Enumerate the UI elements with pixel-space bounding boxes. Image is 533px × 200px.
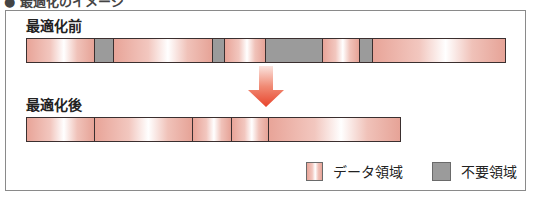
data-segment — [95, 118, 193, 141]
legend-item-waste: 不要領域 — [432, 161, 517, 181]
data-segment — [373, 39, 505, 62]
data-segment — [323, 39, 360, 62]
legend-label-waste: 不要領域 — [461, 161, 517, 181]
after-label: 最適化後 — [26, 94, 82, 114]
waste-segment — [360, 39, 373, 62]
data-segment — [269, 118, 400, 141]
data-segment — [225, 39, 266, 62]
data-area-swatch — [306, 162, 323, 181]
down-arrow-icon — [247, 66, 285, 108]
legend-label-data: データ領域 — [333, 161, 403, 181]
before-optimization-bar — [26, 38, 506, 63]
legend-item-data: データ領域 — [306, 161, 403, 181]
data-segment — [27, 39, 95, 62]
waste-segment — [266, 39, 324, 62]
data-segment — [193, 118, 233, 141]
waste-segment — [213, 39, 225, 62]
before-label: 最適化前 — [26, 15, 82, 35]
section-heading: ● 最適化のイメージ — [4, 0, 124, 10]
data-segment — [114, 39, 213, 62]
waste-area-swatch — [432, 162, 451, 181]
waste-segment — [95, 39, 114, 62]
data-segment — [232, 118, 269, 141]
data-segment — [27, 118, 95, 141]
after-optimization-bar — [26, 117, 401, 142]
